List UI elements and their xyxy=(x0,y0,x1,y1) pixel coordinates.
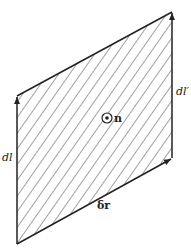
normal-dot xyxy=(105,116,109,120)
parallelogram-diagram xyxy=(0,0,191,248)
label-n: n xyxy=(114,113,122,124)
hatched-area xyxy=(17,12,172,244)
label-dl: dl xyxy=(2,152,13,163)
label-dl-prime: dl′ xyxy=(176,86,189,97)
label-delta-r: δr xyxy=(97,200,110,211)
